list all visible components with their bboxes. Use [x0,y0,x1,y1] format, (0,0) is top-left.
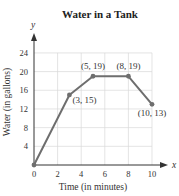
point-label: (8, 19) [116,61,140,71]
x-tick-label: 8 [126,169,130,179]
y-tick-label: 20 [20,67,29,77]
series-line [34,76,152,165]
x-tick-label: 0 [32,169,36,179]
y-axis-label: Water (in gallons) [2,68,13,136]
x-tick-labels: 0246810 [32,169,156,179]
x-axis-letter: x [171,160,177,170]
chart-title: Water in a Tank [62,8,139,20]
x-axis-arrow-icon [160,162,168,168]
y-tick-label: 8 [24,123,28,133]
y-tick-label: 16 [20,85,29,95]
y-tick-label: 4 [24,141,29,151]
data-point [126,74,131,79]
axes: x y [30,20,177,170]
y-tick-labels: 4812162024 [20,48,29,151]
y-tick-label: 24 [20,48,29,58]
point-label: (5, 19) [81,61,105,71]
y-tick-label: 12 [20,104,29,114]
x-tick-label: 4 [79,169,84,179]
x-tick-label: 6 [103,169,107,179]
y-axis-arrow-icon [31,33,37,41]
x-tick-label: 10 [148,169,157,179]
y-axis-letter: y [30,20,36,30]
data-series [32,74,155,168]
data-point [67,93,72,98]
data-point [91,74,96,79]
point-label: (10, 13) [138,108,167,118]
data-point [32,163,37,168]
x-tick-label: 2 [55,169,59,179]
data-point [150,102,155,107]
water-tank-chart: Water in a Tank x y 0246810 4812162024 T… [0,0,179,196]
point-label: (3, 15) [72,95,96,105]
x-axis-label: Time (in minutes) [59,182,127,193]
